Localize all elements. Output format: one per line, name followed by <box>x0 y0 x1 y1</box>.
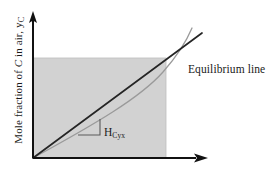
y-axis-label-subscript: C <box>16 16 26 22</box>
y-axis-label-prefix: Mole fraction of <box>12 67 24 144</box>
y-axis-label-symbol: y <box>12 23 24 29</box>
y-axis-label-species: C <box>12 60 24 67</box>
slope-coefficient-label: HCyx <box>104 126 125 138</box>
y-axis-label-mid: in air, <box>12 28 24 60</box>
y-axis-label: Mole fraction of C in air, yC <box>12 0 24 160</box>
slope-coefficient-subscript: Cyx <box>112 131 125 140</box>
equilibrium-diagram-figure: Mole fraction of C in air, yC Equilibriu… <box>0 0 279 177</box>
equilibrium-line-label: Equilibrium line <box>188 63 265 75</box>
x-axis-arrowhead-icon <box>194 154 208 163</box>
plot-canvas <box>0 0 279 177</box>
